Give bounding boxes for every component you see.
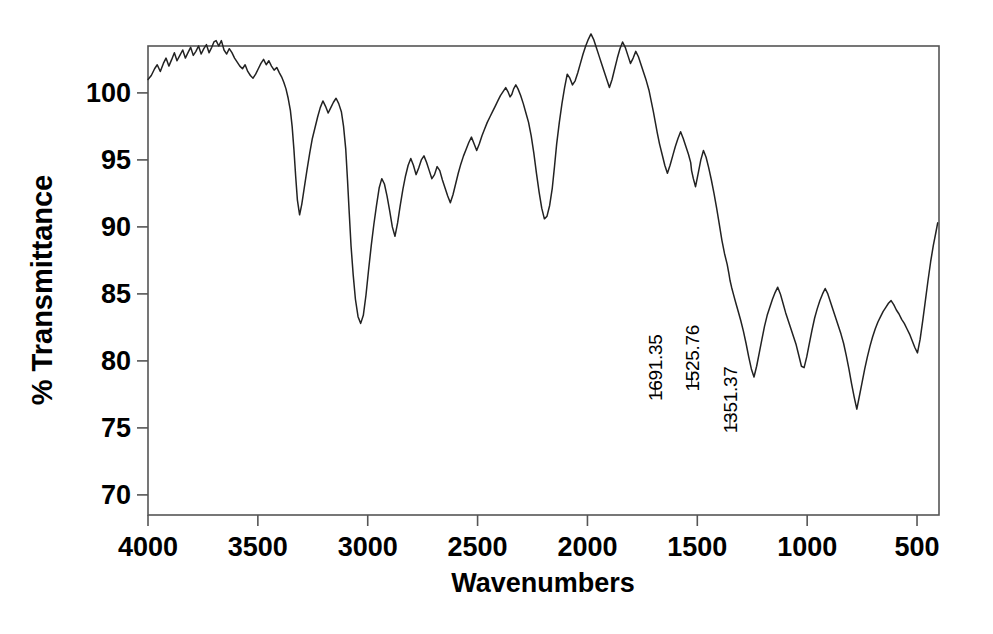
ir-spectrum-figure: 707580859095100 400035003000250020001500…	[0, 0, 993, 634]
chart-canvas: 707580859095100 400035003000250020001500…	[0, 0, 993, 634]
y-tick-label: 85	[101, 279, 131, 309]
x-tick-label: 500	[894, 532, 939, 562]
y-axis-ticks: 707580859095100	[86, 78, 148, 510]
y-tick-label: 95	[101, 145, 131, 175]
peak-annotations: 1691.351525.761351.37	[645, 325, 741, 433]
x-tick-label: 2000	[557, 532, 617, 562]
y-tick-label: 80	[101, 346, 131, 376]
spectrum-trace	[148, 34, 938, 409]
x-tick-label: 4000	[118, 532, 178, 562]
x-tick-label: 1500	[667, 532, 727, 562]
x-tick-label: 1000	[777, 532, 837, 562]
x-axis-ticks: 4000350030002500200015001000500	[118, 515, 940, 562]
y-tick-label: 70	[101, 480, 131, 510]
x-tick-label: 2500	[448, 532, 508, 562]
y-tick-label: 100	[86, 78, 131, 108]
x-tick-label: 3500	[228, 532, 288, 562]
y-tick-label: 90	[101, 212, 131, 242]
plot-frame	[148, 46, 939, 515]
x-tick-label: 3000	[338, 532, 398, 562]
annotation-label: 1351.37	[720, 367, 741, 434]
x-axis-title: Wavenumbers	[451, 568, 635, 598]
y-tick-label: 75	[101, 413, 131, 443]
annotation-label: 1691.35	[645, 334, 666, 401]
annotation-label: 1525.76	[682, 325, 703, 392]
y-axis-title: % Transmittance	[26, 175, 58, 405]
